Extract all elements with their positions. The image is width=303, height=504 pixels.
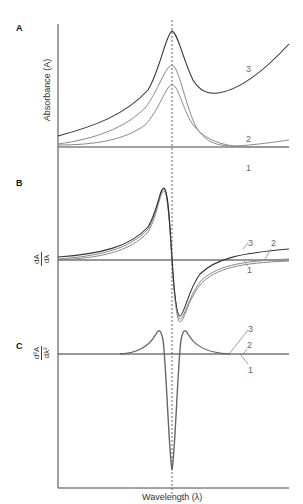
panel-b-label-1: 1 (247, 265, 252, 275)
panel-a-curve-1 (58, 84, 289, 147)
panel-label-c: C (16, 341, 23, 351)
panel-a-label-2: 2 (246, 134, 251, 144)
second-derivative-numerator: d²A (32, 347, 41, 359)
second-derivative-denominator: dλ² (42, 347, 51, 358)
panel-a-curve-3 (58, 31, 289, 136)
panel-b-curve-3 (58, 188, 289, 316)
first-derivative-numerator: dA (32, 254, 41, 264)
panel-b-label-3: 3 (248, 238, 253, 248)
panel-c-label-2: 2 (247, 340, 252, 350)
panel-b-label-2: 2 (271, 238, 276, 248)
panel-c-curve-1 (120, 331, 230, 470)
x-axis-label: Wavelength (λ) (142, 492, 202, 502)
panel-label-b: B (16, 178, 23, 188)
panel-b-curve-1 (58, 191, 289, 322)
panel-label-a: A (16, 23, 23, 33)
y-axis-label-absorbance: Absorbance (A) (42, 55, 52, 125)
panel-b-curve-2 (58, 189, 289, 319)
curve-labels: 3 2 1 3 2 1 3 2 1 (229, 64, 276, 375)
panel-c-label-1: 1 (248, 365, 253, 375)
y-axis-label-second-derivative: d²A dλ² (26, 338, 56, 368)
panel-a-label-3: 3 (246, 64, 251, 74)
panel-a-label-1: 1 (246, 163, 251, 173)
panel-c-label-3: 3 (248, 324, 253, 334)
panel-a-curve-2 (58, 65, 289, 146)
first-derivative-denominator: dλ (42, 255, 51, 263)
y-axis-label-first-derivative: dA dλ (26, 244, 56, 274)
